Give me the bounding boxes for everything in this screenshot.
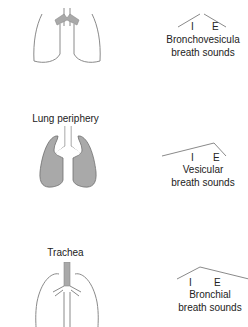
lungs-trachea-shaded-icon (33, 262, 101, 327)
panel-bronchial: Trachea I E Bronchial breath sounds (0, 210, 248, 327)
ie-waveform-icon (158, 141, 248, 159)
expiration-label: E (214, 277, 221, 288)
lungs-periphery-shaded-icon (36, 126, 100, 192)
inspiration-label: I (191, 152, 194, 163)
sound-name-line1: Bronchial (170, 289, 248, 301)
site-label-lung-periphery: Lung periphery (28, 113, 103, 124)
sound-bronchovesicular: I E Bronchovesicula breath sounds (158, 13, 248, 73)
panel-bronchovesicular: I E Bronchovesicula breath sounds (0, 0, 248, 100)
inspiration-label: I (191, 21, 194, 32)
expiration-label: E (212, 21, 219, 32)
inspiration-label: I (189, 277, 192, 288)
site-label-trachea: Trachea (28, 247, 103, 258)
sound-vesicular: I E Vesicular breath sounds (158, 141, 248, 201)
ie-waveform-icon (175, 266, 248, 282)
sound-name-line2: breath sounds (158, 177, 248, 189)
lungs-main-bronchi-icon (30, 8, 105, 68)
panel-vesicular: Lung periphery I E Vesicular breath soun… (0, 100, 248, 210)
sound-name-line1: Vesicular (158, 164, 248, 176)
sound-bronchial: I E Bronchial breath sounds (170, 266, 248, 326)
ie-waveform-icon (158, 13, 248, 29)
sound-name-line2: breath sounds (170, 302, 248, 314)
expiration-label: E (213, 152, 220, 163)
sound-name-line2: breath sounds (158, 47, 248, 59)
sound-name-line1: Bronchovesicula (158, 34, 248, 46)
